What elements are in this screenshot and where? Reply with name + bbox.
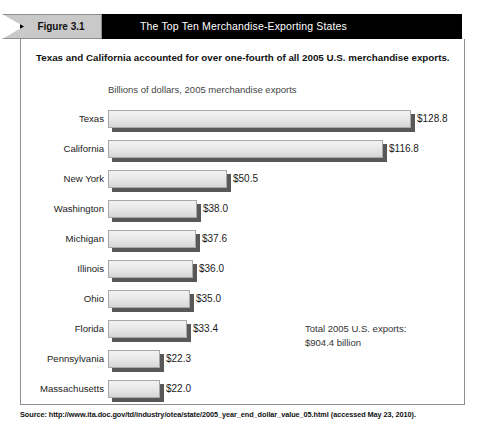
- chart-bar-row: Michigan$37.6: [4, 230, 276, 252]
- bar-chart: Texas$128.8California$116.8New York$50.5…: [0, 0, 485, 424]
- bar-wrapper: [108, 260, 193, 278]
- chart-bar-row: New York$50.5: [4, 170, 307, 192]
- bar-value-label: $22.3: [166, 350, 191, 368]
- bar: [108, 290, 190, 308]
- bar-category-label: California: [4, 140, 104, 158]
- bar-value-label: $33.4: [193, 320, 218, 338]
- bar: [108, 260, 193, 278]
- bar: [108, 200, 197, 218]
- bar-value-label: $38.0: [203, 200, 228, 218]
- chart-bar-row: Florida$33.4: [4, 320, 267, 342]
- bar-value-label: $35.0: [196, 290, 221, 308]
- chart-bar-row: Ohio$35.0: [4, 290, 270, 312]
- bar-category-label: Illinois: [4, 260, 104, 278]
- chart-bar-row: Massachusetts$22.0: [4, 380, 240, 402]
- bar-category-label: Michigan: [4, 230, 104, 248]
- chart-bar-row: Illinois$36.0: [4, 260, 273, 282]
- bar-value-label: $37.6: [202, 230, 227, 248]
- bar: [108, 230, 196, 248]
- bar-value-label: $22.0: [166, 380, 191, 398]
- figure-source-note: Source: http://www.ita.doc.gov/td/indust…: [20, 410, 416, 419]
- bar-wrapper: [108, 290, 190, 308]
- bar: [108, 380, 160, 398]
- bar: [108, 140, 383, 158]
- bar: [108, 350, 160, 368]
- bar-value-label: $116.8: [389, 140, 419, 158]
- bar: [108, 170, 227, 188]
- bar: [108, 320, 187, 338]
- chart-annotation: Total 2005 U.S. exports: $904.4 billion: [305, 322, 406, 349]
- chart-bar-row: California$116.8: [4, 140, 463, 162]
- chart-bar-row: Washington$38.0: [4, 200, 277, 222]
- bar-wrapper: [108, 110, 411, 128]
- bar-category-label: Ohio: [4, 290, 104, 308]
- bar-wrapper: [108, 140, 383, 158]
- bar-wrapper: [108, 320, 187, 338]
- bar-value-label: $50.5: [233, 170, 258, 188]
- bar-value-label: $36.0: [199, 260, 224, 278]
- bar-value-label: $128.8: [417, 110, 448, 128]
- bar-wrapper: [108, 380, 160, 398]
- bar-category-label: New York: [4, 170, 104, 188]
- bar-category-label: Florida: [4, 320, 104, 338]
- chart-bar-row: Pennsylvania$22.3: [4, 350, 240, 372]
- bar-category-label: Washington: [4, 200, 104, 218]
- bar-wrapper: [108, 200, 197, 218]
- bar: [108, 110, 411, 128]
- annotation-line-1: Total 2005 U.S. exports:: [305, 322, 406, 336]
- figure-container: The Top Ten Merchandise-Exporting States…: [0, 0, 485, 424]
- annotation-line-2: $904.4 billion: [305, 336, 406, 350]
- chart-bar-row: Texas$128.8: [4, 110, 485, 132]
- bar-wrapper: [108, 350, 160, 368]
- bar-category-label: Massachusetts: [4, 380, 104, 398]
- bar-wrapper: [108, 170, 227, 188]
- bar-category-label: Pennsylvania: [4, 350, 104, 368]
- bar-wrapper: [108, 230, 196, 248]
- bar-category-label: Texas: [4, 110, 104, 128]
